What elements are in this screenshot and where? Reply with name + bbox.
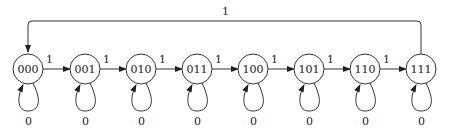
state-label: 011 xyxy=(187,63,208,76)
state-node-001: 0010 xyxy=(70,54,100,128)
self-loop-label: 0 xyxy=(418,115,425,128)
self-loop-label: 0 xyxy=(250,115,257,128)
self-loop-label: 0 xyxy=(306,115,313,128)
self-loop-edge xyxy=(300,83,320,111)
state-label: 001 xyxy=(75,63,96,76)
self-loop-edge xyxy=(19,83,39,111)
wrap-edge-111-to-000 xyxy=(28,21,421,54)
self-loop-edge xyxy=(356,83,376,111)
self-loop-label: 0 xyxy=(25,115,32,128)
state-diagram: 1 11111110000001001000110100010101100111… xyxy=(0,0,450,130)
self-loop-edge xyxy=(412,83,432,111)
self-loop-label: 0 xyxy=(138,115,145,128)
state-node-111: 1110 xyxy=(406,54,436,128)
state-node-000: 0000 xyxy=(13,54,43,128)
transition-label: 1 xyxy=(215,53,222,66)
transition-label: 1 xyxy=(327,53,334,66)
state-node-010: 0100 xyxy=(126,54,156,128)
state-node-101: 1010 xyxy=(294,54,324,128)
state-node-110: 1100 xyxy=(350,54,380,128)
transition-label: 1 xyxy=(46,53,53,66)
transition-label: 1 xyxy=(271,53,278,66)
self-loop-edge xyxy=(244,83,264,111)
state-label: 100 xyxy=(243,63,264,76)
self-loop-label: 0 xyxy=(194,115,201,128)
state-label: 101 xyxy=(299,63,320,76)
self-loop-edge xyxy=(188,83,208,111)
state-node-011: 0110 xyxy=(182,54,212,128)
state-node-100: 1000 xyxy=(238,54,268,128)
state-label: 010 xyxy=(131,63,152,76)
self-loop-label: 0 xyxy=(362,115,369,128)
transition-label: 1 xyxy=(103,53,110,66)
state-label: 111 xyxy=(411,63,432,76)
state-label: 000 xyxy=(18,63,39,76)
self-loop-edge xyxy=(132,83,152,111)
self-loop-edge xyxy=(76,83,96,111)
wrap-edge-label: 1 xyxy=(222,5,229,18)
state-label: 110 xyxy=(355,63,376,76)
transition-label: 1 xyxy=(159,53,166,66)
transition-label: 1 xyxy=(383,53,390,66)
self-loop-label: 0 xyxy=(82,115,89,128)
